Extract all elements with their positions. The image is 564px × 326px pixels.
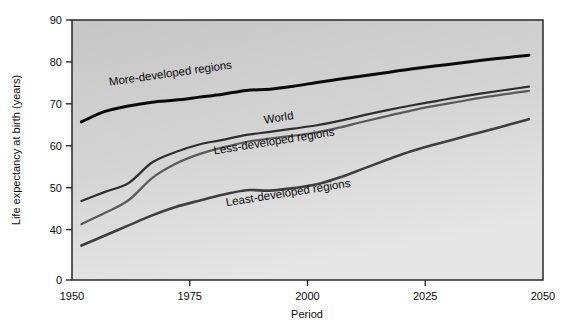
x-tick-label: 1975: [178, 290, 202, 302]
y-tick-label: 90: [50, 14, 62, 26]
x-axis-title: Period: [291, 308, 323, 320]
y-tick-label: 50: [50, 182, 62, 194]
y-tick-label: 40: [50, 224, 62, 236]
y-axis-title: Life expectancy at birth (years): [10, 75, 22, 225]
y-tick-label: 60: [50, 140, 62, 152]
y-tick-label: 70: [50, 98, 62, 110]
x-tick-label: 2000: [295, 290, 319, 302]
x-tick-label: 1950: [60, 290, 84, 302]
y-tick-label: 80: [50, 56, 62, 68]
x-tick-label: 2025: [413, 290, 437, 302]
y-tick-label: 0: [56, 274, 62, 286]
life-expectancy-chart: 0405060708090 19501975200020252050 More-…: [0, 0, 564, 326]
x-tick-label: 2050: [531, 290, 555, 302]
plot-area: [72, 20, 543, 280]
chart-svg: 0405060708090 19501975200020252050 More-…: [0, 0, 564, 326]
